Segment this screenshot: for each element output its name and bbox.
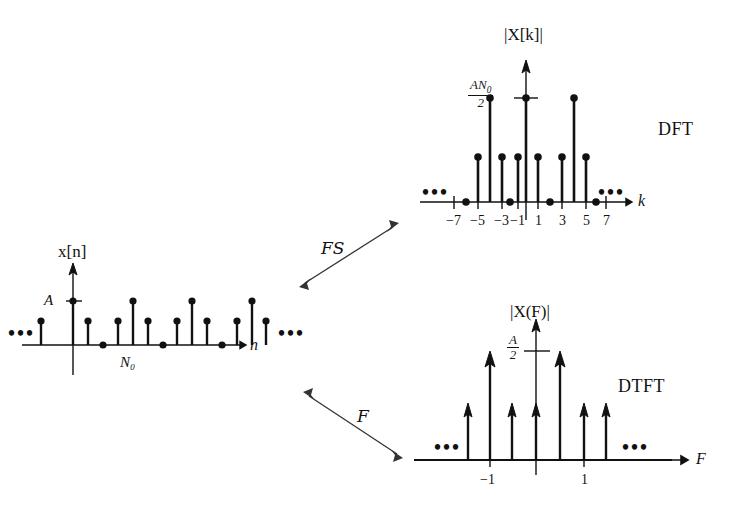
time-domain-panel: x[n] A n N₀ ••• ••• <box>0 245 320 385</box>
dft-stems <box>462 94 600 206</box>
dft-y-axis-label: |X[k]| <box>504 26 543 43</box>
dft-tick-label: −3 <box>494 214 509 228</box>
dft-tick-label: 7 <box>603 214 610 228</box>
dtft-x-axis-label: F <box>696 451 706 467</box>
time-x-axis-arrowhead <box>232 342 246 349</box>
time-right-ellipsis: ••• <box>278 323 305 343</box>
dft-tick-label: −1 <box>510 214 525 228</box>
fourier-transform-arrow <box>285 378 415 473</box>
dft-tick-label: −5 <box>470 214 485 228</box>
dft-peak-denominator: 2 <box>468 95 493 110</box>
dft-method-label: DFT <box>658 120 694 138</box>
dft-right-ellipsis: ••• <box>598 182 625 202</box>
fourier-series-arrow-group: FS <box>285 210 415 300</box>
time-domain-plot <box>0 245 320 385</box>
amplitude-label: A <box>44 293 53 308</box>
dft-left-ellipsis: ••• <box>422 182 449 202</box>
dft-peak-label: AN0 2 <box>468 78 493 110</box>
dft-peak-numerator: AN0 <box>468 78 493 95</box>
dtft-impulses <box>464 351 610 460</box>
dtft-y-axis-label: |X(F)| <box>510 303 550 320</box>
dft-tick-label: 1 <box>535 214 542 228</box>
dtft-tick-label: 1 <box>581 473 588 487</box>
time-stems <box>37 297 269 348</box>
dft-tick-label: −7 <box>446 214 461 228</box>
dtft-panel: |X(F)| A 2 F DTFT ••• ••• −1 1 <box>410 305 731 525</box>
dtft-plot <box>410 305 731 525</box>
dft-x-axis-label: k <box>638 193 645 209</box>
dtft-x-axis-arrowhead <box>672 456 688 464</box>
fourier-transform-label: F <box>357 406 369 426</box>
dtft-method-label: DTFT <box>618 377 665 395</box>
time-left-ellipsis: ••• <box>8 323 35 343</box>
fourier-series-label: FS <box>321 238 344 258</box>
fourier-transform-arrow-group: F <box>285 378 415 473</box>
time-y-axis-label: x[n] <box>58 243 86 260</box>
time-x-axis-label: n <box>250 337 258 353</box>
fourier-series-arrow <box>285 210 415 300</box>
dtft-left-ellipsis: ••• <box>434 437 461 457</box>
dft-panel: |X[k]| AN0 2 k DFT ••• ••• −7 −5 −3 −1 1… <box>410 20 731 260</box>
dft-tick-label: 3 <box>559 214 566 228</box>
period-label: N₀ <box>120 355 135 370</box>
dtft-peak-numerator: A <box>507 333 519 347</box>
figure-canvas: x[n] A n N₀ ••• ••• <box>0 0 731 532</box>
dtft-right-ellipsis: ••• <box>622 437 649 457</box>
dtft-tick-label: −1 <box>480 473 495 487</box>
dtft-peak-label: A 2 <box>507 333 519 361</box>
dft-tick-label: 5 <box>583 214 590 228</box>
dtft-peak-denominator: 2 <box>507 347 519 362</box>
